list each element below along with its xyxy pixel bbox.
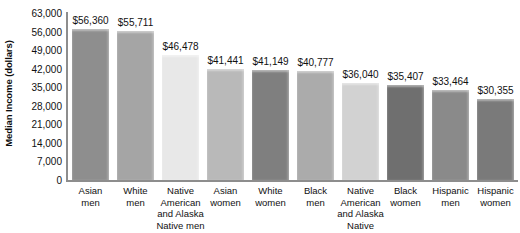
bar-value-label: $35,407 xyxy=(387,72,423,82)
bar-slot: $56,360 xyxy=(68,12,113,180)
bar-chart: Median Income (dollars) 63,00056,00049,0… xyxy=(0,0,520,232)
bar-value-label: $56,360 xyxy=(72,16,108,26)
bar xyxy=(117,31,154,180)
bar xyxy=(162,55,199,180)
bar xyxy=(252,70,289,180)
bar-value-label: $36,040 xyxy=(342,70,378,80)
y-axis-title: Median Income (dollars) xyxy=(0,0,16,186)
bar-value-label: $46,478 xyxy=(162,42,198,52)
y-axis-tick-label: 49,000 xyxy=(18,46,62,56)
bar-slot: $41,441 xyxy=(203,12,248,180)
bar xyxy=(477,99,514,180)
bar-value-label: $41,149 xyxy=(252,57,288,67)
y-axis-tick-label: 28,000 xyxy=(18,102,62,112)
bar-slot: $40,777 xyxy=(293,12,338,180)
bar-value-label: $55,711 xyxy=(118,18,153,28)
bar xyxy=(207,69,244,180)
bar xyxy=(387,85,424,180)
category-label-line: Native men xyxy=(151,220,210,232)
bar-slot: $35,407 xyxy=(383,12,428,180)
category-label-line: and Alaska xyxy=(151,208,210,220)
plot-area: $56,360$55,711$46,478$41,441$41,149$40,7… xyxy=(68,12,518,180)
category-label-line: Native women xyxy=(331,220,390,233)
bar-slot: $55,711 xyxy=(113,12,158,180)
category-label-line: Hispanic xyxy=(466,185,520,197)
y-axis-title-text: Median Income (dollars) xyxy=(3,40,14,146)
bar xyxy=(432,90,469,180)
bar-value-label: $41,441 xyxy=(207,56,243,66)
bar xyxy=(342,83,379,180)
y-axis-tick-labels: 63,00056,00049,00042,00035,00028,00021,0… xyxy=(18,0,62,186)
bar xyxy=(297,71,334,180)
x-axis-category-labels: AsianmenWhitemenNativeAmericanand Alaska… xyxy=(68,185,518,232)
y-axis-tick-label: 56,000 xyxy=(18,28,62,38)
y-axis-tick-label: 35,000 xyxy=(18,83,62,93)
bar-value-label: $30,355 xyxy=(477,86,513,96)
bar xyxy=(72,29,109,180)
bar-slot: $30,355 xyxy=(473,12,518,180)
y-axis-tick-label: 7,000 xyxy=(18,157,62,167)
bar-slot: $33,464 xyxy=(428,12,473,180)
y-axis-tick-label: 63,000 xyxy=(18,9,62,19)
y-axis-tick-label: 14,000 xyxy=(18,139,62,149)
y-axis-tick-label: 42,000 xyxy=(18,65,62,75)
category-label-line: and Alaska xyxy=(331,208,390,220)
y-axis-tick-label: 0 xyxy=(18,176,62,186)
bar-value-label: $40,777 xyxy=(297,58,333,68)
x-axis-line xyxy=(66,180,518,182)
bar-slot: $41,149 xyxy=(248,12,293,180)
x-axis-category-label: Hispanicwomen xyxy=(466,185,520,208)
bar-slot: $46,478 xyxy=(158,12,203,180)
category-label-line: women xyxy=(466,197,520,209)
bar-value-label: $33,464 xyxy=(432,77,468,87)
bar-slot: $36,040 xyxy=(338,12,383,180)
y-axis-tick-label: 21,000 xyxy=(18,120,62,130)
